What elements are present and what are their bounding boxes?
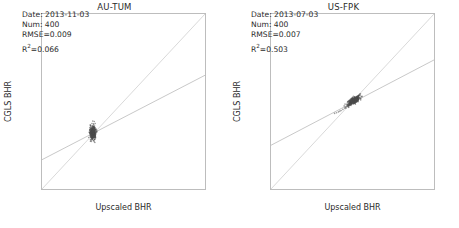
annotation-rmse-right: RMSE=0.007 — [251, 30, 318, 40]
x-tick-mark-right — [332, 189, 333, 190]
annotation-r2-left: R2=0.066 — [22, 41, 89, 55]
x-axis-label-right: Upscaled BHR — [270, 203, 435, 212]
y-tick-mark-right — [270, 102, 271, 103]
scatter-point — [350, 99, 352, 101]
scatter-point — [89, 129, 91, 131]
scatter-point — [90, 141, 92, 143]
scatter-point — [88, 137, 90, 139]
scatter-point — [95, 129, 97, 131]
scatter-point — [93, 140, 95, 142]
y-tick-mark-left — [41, 102, 42, 103]
scatter-point — [90, 132, 92, 134]
y-axis-label-right-text: CGLS BHR — [233, 81, 242, 122]
scatter-point — [91, 138, 93, 140]
scatter-point — [94, 136, 96, 138]
x-tick-mark-right — [393, 189, 394, 190]
x-tick-mark-left — [164, 189, 165, 190]
scatter-point — [94, 127, 96, 129]
scatter-points-right — [334, 93, 363, 114]
scatter-point — [334, 113, 336, 115]
scatter-point — [93, 130, 95, 132]
scatter-point — [94, 123, 96, 125]
scatter-point — [344, 103, 346, 105]
x-tick-mark-left — [83, 189, 84, 190]
scatter-point — [89, 127, 91, 129]
scatter-point — [360, 93, 362, 95]
x-tick-mark-right — [434, 189, 435, 190]
y-tick-mark-right — [270, 123, 271, 124]
scatter-point — [91, 123, 93, 125]
x-tick-mark-left — [185, 189, 186, 190]
scatter-point — [355, 101, 357, 103]
scatter-point — [359, 95, 361, 97]
y-tick-mark-left — [41, 167, 42, 168]
annotation-r2-value-right: =0.503 — [260, 44, 288, 53]
y-tick-mark-right — [270, 167, 271, 168]
x-tick-mark-right — [291, 189, 292, 190]
annotation-r2-right: R2=0.503 — [251, 41, 318, 55]
scatter-point — [360, 99, 362, 101]
scatter-point — [345, 107, 347, 109]
annotation-date-right: Date: 2013-07-03 — [251, 10, 318, 20]
y-axis-label-left: CGLS BHR — [2, 13, 14, 190]
y-tick-mark-left — [41, 189, 42, 190]
scatter-point — [93, 124, 95, 126]
x-tick-mark-left — [62, 189, 63, 190]
scatter-point — [357, 100, 359, 102]
scatter-point — [354, 98, 356, 100]
annotation-num-left: Num: 400 — [22, 20, 89, 30]
x-tick-mark-right — [353, 189, 354, 190]
scatter-point — [352, 98, 354, 100]
scatter-point — [95, 131, 97, 133]
y-tick-mark-left — [41, 123, 42, 124]
y-axis-label-left-text: CGLS BHR — [4, 81, 13, 122]
x-tick-mark-right — [414, 189, 415, 190]
y-tick-mark-right — [270, 80, 271, 81]
scatter-point — [92, 120, 94, 122]
x-tick-mark-left — [103, 189, 104, 190]
annotation-r2-value-left: =0.066 — [31, 44, 59, 53]
scatter-point — [342, 109, 344, 111]
scatter-point — [338, 111, 340, 113]
x-tick-mark-left — [144, 189, 145, 190]
scatter-point — [336, 112, 338, 114]
scatter-point — [91, 128, 93, 130]
x-tick-mark-left — [42, 189, 43, 190]
x-tick-mark-left — [124, 189, 125, 190]
scatter-point — [93, 134, 95, 136]
x-tick-mark-right — [373, 189, 374, 190]
stats-annotation-right: Date: 2013-07-03 Num: 400 RMSE=0.007 R2=… — [251, 10, 318, 54]
scatter-point — [357, 99, 359, 101]
scatter-point — [93, 121, 95, 123]
scatter-point — [90, 125, 92, 127]
annotation-rmse-left: RMSE=0.009 — [22, 30, 89, 40]
scatter-point — [356, 95, 358, 97]
scatter-point — [347, 104, 349, 106]
scatter-point — [348, 106, 350, 108]
x-tick-mark-left — [205, 189, 206, 190]
y-axis-label-right: CGLS BHR — [231, 13, 243, 190]
scatter-point — [343, 105, 345, 107]
y-tick-mark-left — [41, 58, 42, 59]
x-tick-mark-right — [312, 189, 313, 190]
scatter-point — [93, 132, 95, 134]
y-tick-mark-right — [270, 58, 271, 59]
scatter-point — [91, 136, 93, 138]
scatter-point — [91, 134, 93, 136]
scatter-point — [346, 105, 348, 107]
panel-us-fpk: US-FPK CGLS BHR 0.000.050.100.150.200.25… — [229, 0, 458, 228]
scatter-point — [355, 103, 357, 105]
scatter-point — [95, 133, 97, 135]
scatter-points-left — [88, 120, 98, 143]
panel-au-tum: AU-TUM CGLS BHR 0.000.050.100.150.200.25… — [0, 0, 229, 228]
annotation-num-right: Num: 400 — [251, 20, 318, 30]
annotation-date-left: Date: 2013-11-03 — [22, 10, 89, 20]
scatter-point — [353, 100, 355, 102]
x-axis-label-left: Upscaled BHR — [41, 203, 206, 212]
stats-annotation-left: Date: 2013-11-03 Num: 400 RMSE=0.009 R2=… — [22, 10, 89, 54]
figure-two-panel-scatter: AU-TUM CGLS BHR 0.000.050.100.150.200.25… — [0, 0, 459, 228]
scatter-point — [339, 110, 341, 112]
y-tick-mark-right — [270, 145, 271, 146]
y-tick-mark-left — [41, 145, 42, 146]
x-tick-mark-right — [271, 189, 272, 190]
